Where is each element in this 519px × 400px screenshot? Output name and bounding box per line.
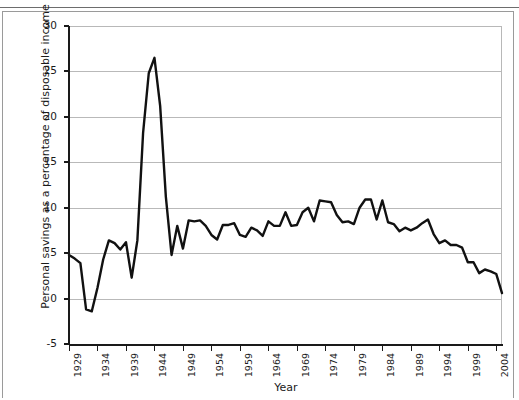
plot-area bbox=[69, 26, 502, 344]
x-tick-1929 bbox=[69, 346, 70, 351]
y-tick-20 bbox=[64, 116, 69, 118]
series-personal-savings bbox=[69, 26, 502, 344]
page-ghost-caption bbox=[150, 0, 400, 6]
x-tick-label-1964: 1964 bbox=[272, 353, 282, 377]
x-tick-1934 bbox=[97, 346, 98, 351]
x-tick-1954 bbox=[211, 346, 212, 351]
x-tick-label-1939: 1939 bbox=[130, 353, 140, 377]
x-tick-1974 bbox=[325, 346, 326, 351]
x-axis-line bbox=[69, 344, 503, 346]
series-line bbox=[69, 58, 502, 311]
x-tick-1979 bbox=[354, 346, 355, 351]
x-tick-label-1984: 1984 bbox=[386, 353, 396, 377]
x-tick-label-1944: 1944 bbox=[158, 353, 168, 377]
x-axis-title: Year bbox=[69, 381, 503, 394]
y-tick-label--5: -5 bbox=[17, 338, 57, 349]
x-tick-label-1934: 1934 bbox=[101, 353, 111, 377]
x-tick-1969 bbox=[297, 346, 298, 351]
y-tick-0 bbox=[64, 298, 69, 300]
x-tick-label-1994: 1994 bbox=[443, 353, 453, 377]
x-tick-1939 bbox=[126, 346, 127, 351]
x-tick-label-1929: 1929 bbox=[73, 353, 83, 377]
x-tick-label-2004: 2004 bbox=[500, 353, 510, 377]
y-axis-title: Personal savings as a percentage of disp… bbox=[39, 0, 52, 322]
x-tick-label-1974: 1974 bbox=[329, 353, 339, 377]
x-tick-label-1989: 1989 bbox=[415, 353, 425, 377]
x-tick-1999 bbox=[468, 346, 469, 351]
x-tick-label-1999: 1999 bbox=[472, 353, 482, 377]
x-tick-label-1949: 1949 bbox=[187, 353, 197, 377]
y-tick-10 bbox=[64, 207, 69, 209]
y-tick-25 bbox=[64, 70, 69, 72]
x-tick-label-1979: 1979 bbox=[358, 353, 368, 377]
x-tick-label-1969: 1969 bbox=[301, 353, 311, 377]
page-top-rule bbox=[0, 7, 519, 8]
x-tick-1944 bbox=[154, 346, 155, 351]
x-tick-label-1959: 1959 bbox=[244, 353, 254, 377]
y-tick-30 bbox=[64, 25, 69, 27]
x-tick-1984 bbox=[382, 346, 383, 351]
y-tick-15 bbox=[64, 161, 69, 163]
x-tick-1989 bbox=[411, 346, 412, 351]
x-tick-1964 bbox=[268, 346, 269, 351]
x-tick-label-1954: 1954 bbox=[215, 353, 225, 377]
x-tick-2004 bbox=[496, 346, 497, 351]
y-tick-5 bbox=[64, 252, 69, 254]
x-tick-1949 bbox=[183, 346, 184, 351]
x-tick-1959 bbox=[240, 346, 241, 351]
x-tick-1994 bbox=[439, 346, 440, 351]
